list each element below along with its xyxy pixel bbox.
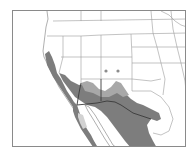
range-map [12,10,186,147]
map-svg [13,11,186,147]
occurrence-dot-1 [104,69,107,72]
primary-range-california [45,51,77,107]
isolated-range-baja [78,113,87,129]
occurrence-dot-2 [116,69,119,72]
